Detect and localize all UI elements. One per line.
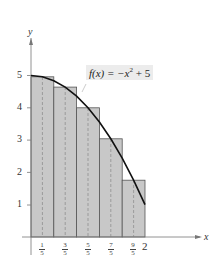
x-tick-3-5: 35: [60, 242, 70, 257]
y-tick-2: 2: [17, 166, 22, 177]
y-axis-label: y: [28, 26, 32, 37]
y-tick-5: 5: [17, 69, 22, 80]
x-axis-label: x: [204, 231, 208, 242]
x-tick-5-5: 55: [83, 242, 93, 257]
rectangle-5: [122, 180, 145, 237]
rectangle-3: [77, 108, 100, 237]
y-tick-1: 1: [17, 198, 22, 209]
function-label: f(x) = −x2 + 5: [86, 65, 153, 80]
midpoint-rule-chart: [0, 0, 218, 270]
x-tick-1-5: 15: [37, 242, 47, 257]
x-tick-7-5: 75: [106, 242, 116, 257]
midpoint-rectangles: [31, 77, 145, 237]
y-tick-3: 3: [17, 133, 22, 144]
y-axis-arrow-icon: [29, 38, 33, 45]
x-axis-arrow-icon: [195, 235, 202, 239]
x-tick-2: 2: [142, 240, 148, 252]
x-tick-9-5: 95: [128, 242, 138, 257]
label-leader-line: [82, 84, 86, 92]
y-tick-4: 4: [17, 101, 22, 112]
